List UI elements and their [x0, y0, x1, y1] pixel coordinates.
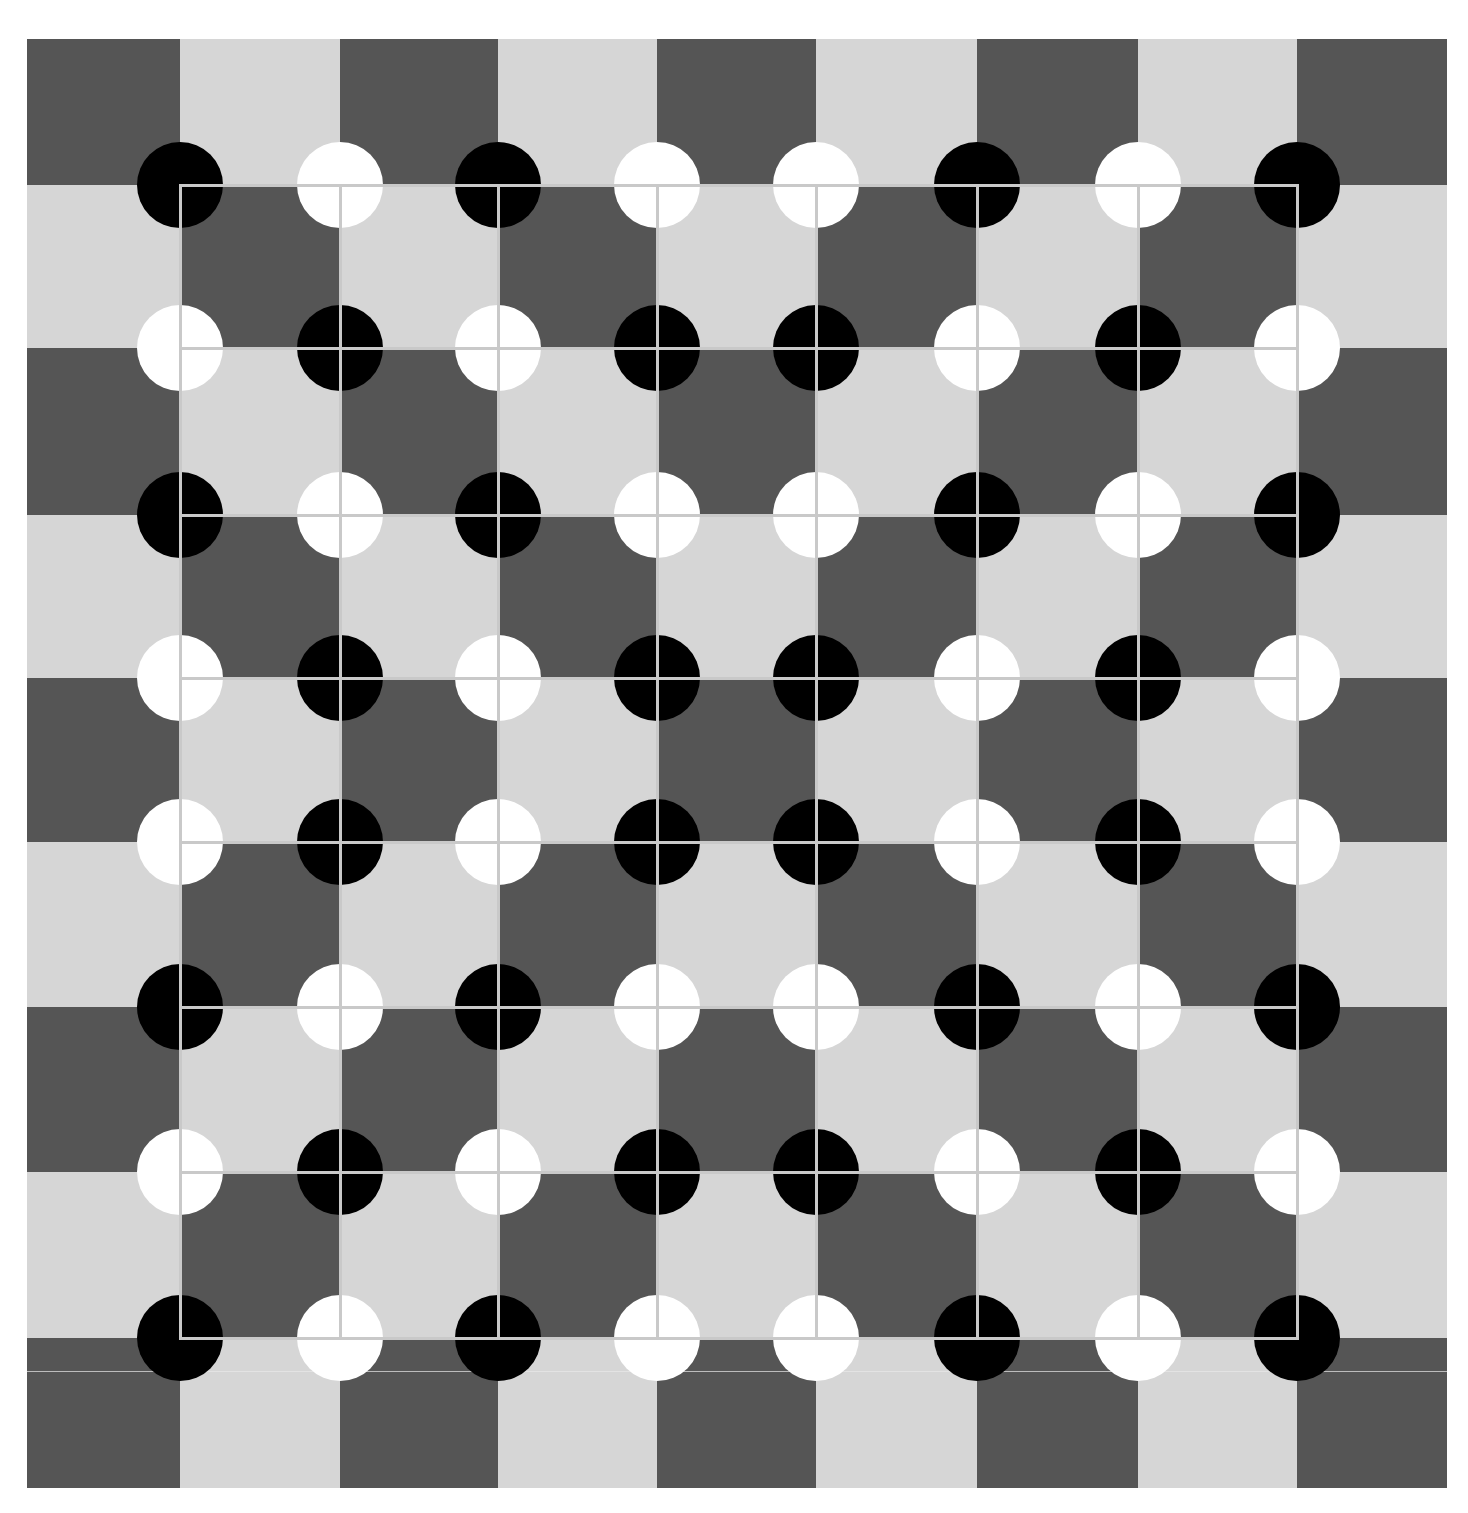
vertical-grid-line — [179, 184, 182, 1340]
checkerboard — [0, 0, 1468, 1513]
illusion-figure — [0, 0, 1468, 1513]
horizontal-grid-line — [179, 514, 1299, 517]
vertical-grid-line — [1137, 184, 1140, 1340]
horizontal-grid-line — [179, 1171, 1299, 1174]
vertical-grid-line — [815, 184, 818, 1340]
horizontal-grid-line — [179, 841, 1299, 844]
vertical-grid-line — [339, 184, 342, 1340]
horizontal-grid-line — [179, 1006, 1299, 1009]
horizontal-grid-line — [179, 677, 1299, 680]
vertical-grid-line — [656, 184, 659, 1340]
horizontal-grid-line — [179, 1337, 1299, 1340]
vertical-grid-line — [976, 184, 979, 1340]
horizontal-grid-line — [179, 347, 1299, 350]
vertical-grid-line — [1296, 184, 1299, 1340]
scan-artifact-line — [27, 1371, 1447, 1372]
vertical-grid-line — [497, 184, 500, 1340]
horizontal-grid-line — [179, 184, 1299, 187]
